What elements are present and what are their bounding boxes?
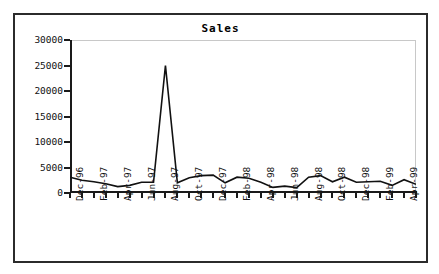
x-axis-tick-label: Apr-99 <box>408 167 419 201</box>
x-axis-tick <box>403 193 405 198</box>
y-axis-tick-label: 15000 <box>17 112 63 121</box>
x-axis-tick-label: Dec-96 <box>74 167 85 201</box>
chart-title: Sales <box>15 22 426 35</box>
y-axis-tick-label: 0 <box>17 188 63 197</box>
x-axis-tick-label: Jun-97 <box>146 167 157 201</box>
y-axis-tick-label: 30000 <box>17 35 63 44</box>
x-axis-tick-label: Feb-97 <box>98 167 109 201</box>
x-axis-tick <box>331 193 333 198</box>
y-axis-tick <box>64 116 70 118</box>
x-axis-tick <box>296 193 298 198</box>
y-axis-tick <box>64 141 70 143</box>
x-axis-tick <box>260 193 262 198</box>
x-axis-tick-label: Apr-97 <box>122 167 133 201</box>
y-axis-tick <box>64 167 70 169</box>
x-axis-tick <box>81 193 83 198</box>
x-axis-tick <box>141 193 143 198</box>
x-axis-tick <box>105 193 107 198</box>
x-axis-tick-label: Oct-98 <box>336 167 347 201</box>
x-axis-tick-label: Dec-97 <box>217 167 228 201</box>
x-axis-tick <box>415 193 417 198</box>
x-axis-tick-label: Apr-98 <box>265 167 276 201</box>
x-axis-tick-label: Aug-97 <box>169 167 180 201</box>
x-axis-tick <box>129 193 131 198</box>
y-axis-label-group: 050001000015000200002500030000 <box>15 15 63 274</box>
x-axis-tick-label: Dec-98 <box>360 167 371 201</box>
y-axis-tick-label: 5000 <box>17 163 63 172</box>
x-axis-tick <box>212 193 214 198</box>
y-axis-tick <box>64 90 70 92</box>
y-axis-tick-label: 10000 <box>17 137 63 146</box>
x-axis-tick <box>379 193 381 198</box>
x-axis-tick <box>284 193 286 198</box>
x-axis-tick <box>117 193 119 198</box>
x-axis-tick <box>308 193 310 198</box>
y-axis-tick <box>64 39 70 41</box>
y-axis-tick <box>64 65 70 67</box>
x-axis-tick-label: Oct-97 <box>193 167 204 201</box>
x-axis-tick <box>69 193 71 198</box>
y-axis-tick-label: 20000 <box>17 86 63 95</box>
y-axis-tick-label: 25000 <box>17 61 63 70</box>
x-axis-tick <box>391 193 393 198</box>
x-axis-tick <box>200 193 202 198</box>
x-axis-tick <box>272 193 274 198</box>
x-axis-tick <box>367 193 369 198</box>
x-axis-tick <box>164 193 166 198</box>
x-axis-tick-label: Feb-99 <box>384 167 395 201</box>
x-axis-tick <box>176 193 178 198</box>
x-axis-tick <box>93 193 95 198</box>
x-axis-tick <box>236 193 238 198</box>
x-axis-tick <box>248 193 250 198</box>
x-axis-tick <box>153 193 155 198</box>
x-axis-tick-label: Feb-98 <box>241 167 252 201</box>
chart-object-frame[interactable]: Sales 050001000015000200002500030000 Dec… <box>13 13 428 263</box>
x-axis-tick <box>188 193 190 198</box>
x-axis-tick <box>320 193 322 198</box>
x-axis-tick-label: Jun-98 <box>289 167 300 201</box>
x-axis-tick <box>224 193 226 198</box>
x-axis-tick <box>355 193 357 198</box>
x-axis-tick <box>343 193 345 198</box>
x-axis-tick-label: Aug-98 <box>313 167 324 201</box>
chart-screenshot: Sales 050001000015000200002500030000 Dec… <box>0 0 439 274</box>
